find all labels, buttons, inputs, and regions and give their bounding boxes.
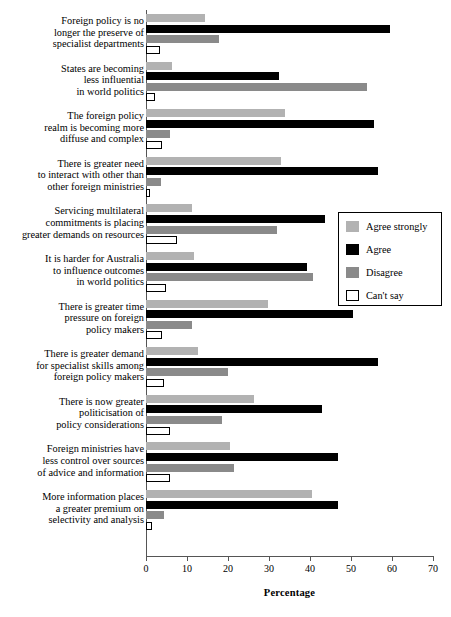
bar-disagree bbox=[146, 35, 219, 43]
x-tick-label: 50 bbox=[336, 563, 366, 574]
x-axis-line bbox=[146, 556, 433, 557]
bar-disagree bbox=[146, 321, 192, 329]
legend-item: Agree bbox=[346, 244, 391, 255]
x-tick bbox=[433, 556, 434, 561]
bar-agree bbox=[146, 72, 279, 80]
bar-group: The foreign policyrealm is becoming more… bbox=[0, 109, 451, 151]
x-axis-title: Percentage bbox=[146, 587, 433, 598]
x-tick bbox=[228, 556, 229, 561]
bar-cant-say bbox=[146, 46, 160, 54]
legend-item: Disagree bbox=[346, 267, 403, 278]
legend-label: Agree strongly bbox=[366, 221, 427, 232]
bar-disagree bbox=[146, 273, 313, 281]
bar-agree bbox=[146, 405, 322, 413]
category-label: Servicing multilateralcommitments is pla… bbox=[6, 205, 144, 240]
bar-group: States are becomingless influentialin wo… bbox=[0, 62, 451, 104]
bar-cant-say bbox=[146, 331, 162, 339]
x-tick-label: 40 bbox=[295, 563, 325, 574]
bar-group: There is greater demandfor specialist sk… bbox=[0, 347, 451, 389]
category-label: There is greater needto interact with ot… bbox=[6, 158, 144, 193]
bar-agree-strongly bbox=[146, 157, 281, 165]
x-tick bbox=[187, 556, 188, 561]
bar-disagree bbox=[146, 464, 234, 472]
chart-legend: Agree stronglyAgreeDisagreeCan't say bbox=[338, 212, 442, 306]
bar-agree bbox=[146, 310, 353, 318]
category-label: There is greater demandfor specialist sk… bbox=[6, 348, 144, 383]
bar-cant-say bbox=[146, 284, 166, 292]
bar-agree bbox=[146, 453, 338, 461]
x-tick-label: 20 bbox=[213, 563, 243, 574]
bar-cant-say bbox=[146, 93, 155, 101]
bar-agree bbox=[146, 215, 325, 223]
category-label: More information placesa greater premium… bbox=[6, 491, 144, 526]
bar-group: There is now greaterpoliticisation ofpol… bbox=[0, 395, 451, 437]
category-label: It is harder for Australiato influence o… bbox=[6, 253, 144, 288]
bar-disagree bbox=[146, 226, 277, 234]
bar-cant-say bbox=[146, 236, 177, 244]
bar-cant-say bbox=[146, 379, 164, 387]
bar-agree bbox=[146, 167, 378, 175]
x-tick-label: 10 bbox=[172, 563, 202, 574]
x-tick bbox=[351, 556, 352, 561]
bar-disagree bbox=[146, 511, 164, 519]
bar-agree-strongly bbox=[146, 490, 312, 498]
bar-agree bbox=[146, 120, 374, 128]
bar-agree-strongly bbox=[146, 347, 198, 355]
x-tick-label: 70 bbox=[418, 563, 448, 574]
x-tick bbox=[392, 556, 393, 561]
bar-agree-strongly bbox=[146, 62, 172, 70]
bar-disagree bbox=[146, 83, 367, 91]
legend-label: Can't say bbox=[366, 290, 404, 301]
legend-label: Agree bbox=[366, 244, 391, 255]
x-tick-label: 60 bbox=[377, 563, 407, 574]
bar-agree bbox=[146, 25, 390, 33]
bar-group: Foreign policy is nolonger the preserve … bbox=[0, 14, 451, 56]
x-tick bbox=[310, 556, 311, 561]
bar-group: There is greater needto interact with ot… bbox=[0, 157, 451, 199]
category-label: The foreign policyrealm is becoming more… bbox=[6, 110, 144, 145]
legend-swatch-agree-strongly bbox=[346, 221, 359, 232]
bar-agree bbox=[146, 263, 307, 271]
bar-agree-strongly bbox=[146, 252, 194, 260]
category-label: There is greater timepressure on foreign… bbox=[6, 301, 144, 336]
legend-swatch-cant-say bbox=[346, 290, 359, 301]
bar-disagree bbox=[146, 416, 222, 424]
legend-swatch-agree bbox=[346, 244, 359, 255]
category-label: States are becomingless influentialin wo… bbox=[6, 63, 144, 98]
x-tick-label: 0 bbox=[131, 563, 161, 574]
bar-disagree bbox=[146, 178, 161, 186]
bar-agree bbox=[146, 501, 338, 509]
legend-swatch-disagree bbox=[346, 267, 359, 278]
bar-agree-strongly bbox=[146, 14, 205, 22]
category-label: Foreign ministries haveless control over… bbox=[6, 443, 144, 478]
legend-item: Agree strongly bbox=[346, 221, 427, 232]
bar-agree-strongly bbox=[146, 300, 268, 308]
bar-cant-say bbox=[146, 141, 162, 149]
x-tick bbox=[269, 556, 270, 561]
bar-group: Foreign ministries haveless control over… bbox=[0, 442, 451, 484]
legend-item: Can't say bbox=[346, 290, 404, 301]
bar-agree-strongly bbox=[146, 109, 285, 117]
category-label: There is now greaterpoliticisation ofpol… bbox=[6, 396, 144, 431]
x-tick bbox=[146, 556, 147, 561]
bar-disagree bbox=[146, 368, 228, 376]
bar-cant-say bbox=[146, 427, 170, 435]
x-tick-label: 30 bbox=[254, 563, 284, 574]
bar-agree-strongly bbox=[146, 204, 192, 212]
horizontal-bar-chart: 010203040506070 Percentage Foreign polic… bbox=[0, 0, 451, 617]
legend-label: Disagree bbox=[366, 267, 403, 278]
bar-group: More information placesa greater premium… bbox=[0, 490, 451, 532]
category-label: Foreign policy is nolonger the preserve … bbox=[6, 15, 144, 50]
bar-agree-strongly bbox=[146, 442, 230, 450]
bar-cant-say bbox=[146, 474, 170, 482]
bar-disagree bbox=[146, 130, 170, 138]
bar-agree-strongly bbox=[146, 395, 254, 403]
bar-agree bbox=[146, 358, 378, 366]
bar-cant-say bbox=[146, 522, 152, 530]
bar-cant-say bbox=[146, 189, 150, 197]
